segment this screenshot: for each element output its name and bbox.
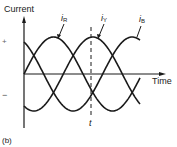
positive-sign: + — [2, 38, 7, 46]
series-label-i-y: iY — [101, 14, 107, 23]
leader-i-b — [137, 26, 141, 37]
x-axis-label: Time — [152, 77, 172, 86]
y-axis-label: Current — [4, 5, 34, 14]
leader-i-y — [99, 24, 104, 36]
negative-sign: − — [2, 91, 7, 100]
panel-label: (b) — [2, 137, 12, 145]
y-axis-arrow-icon — [22, 16, 26, 23]
time-marker-label: t — [89, 119, 92, 128]
series-label-i-b: iB — [139, 15, 145, 24]
leader-i-r — [59, 24, 64, 36]
series-label-i-r: iR — [61, 14, 67, 23]
